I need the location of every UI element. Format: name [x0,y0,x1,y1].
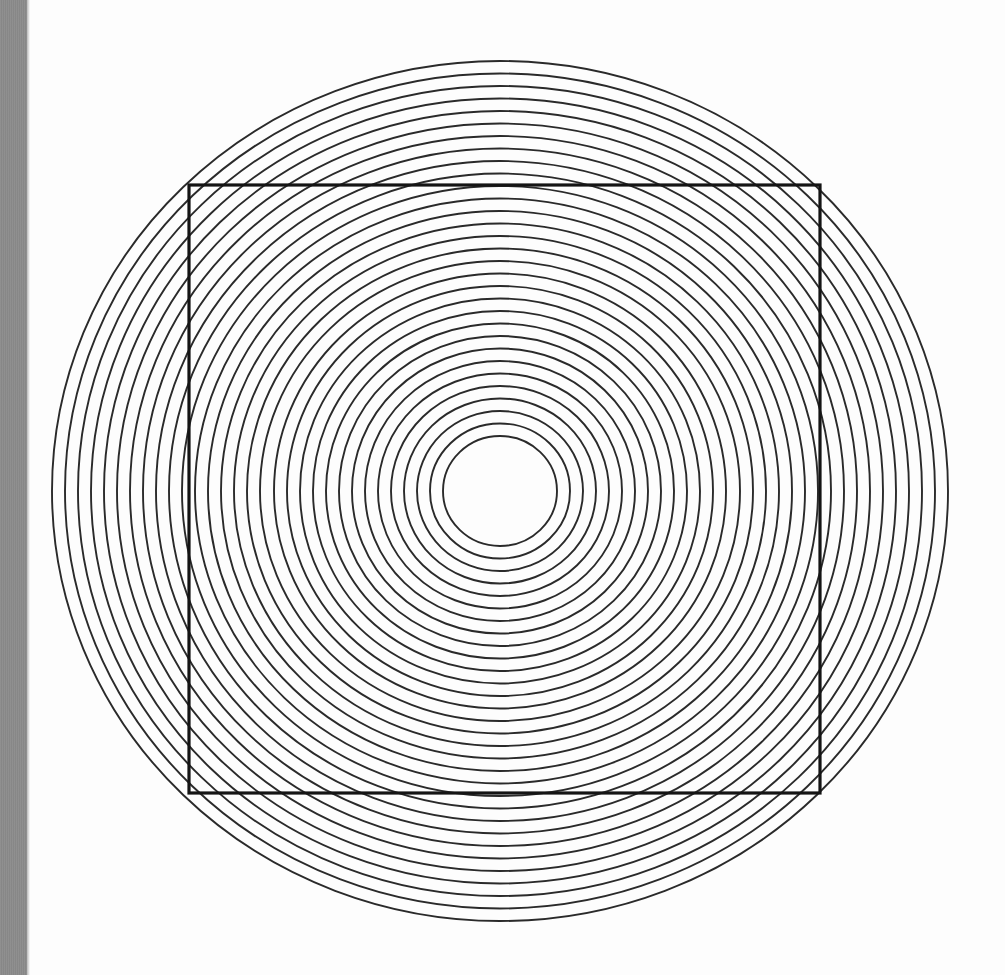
ring-7 [365,361,635,621]
ring-11 [313,311,687,671]
ring-4 [404,399,596,584]
ring-18 [221,224,779,759]
ring-21 [182,186,818,796]
figure-canvas [0,0,1005,975]
ring-22 [169,174,831,809]
ring-29 [78,86,922,896]
ring-26 [117,124,883,859]
ring-1 [443,436,557,546]
concentric-circles-figure [0,0,1005,975]
ring-28 [91,99,909,884]
ring-15 [260,261,740,721]
ring-13 [287,286,713,696]
ring-3 [417,411,583,571]
ring-27 [104,111,896,871]
ring-12 [300,299,700,684]
ring-16 [247,249,753,734]
ring-14 [274,274,726,709]
ring-24 [143,149,857,834]
ring-19 [208,211,792,771]
ring-2 [430,424,570,559]
ring-9 [339,336,661,646]
ring-5 [391,386,609,596]
ring-25 [130,136,870,846]
ring-8 [352,349,648,634]
ring-6 [378,374,622,609]
